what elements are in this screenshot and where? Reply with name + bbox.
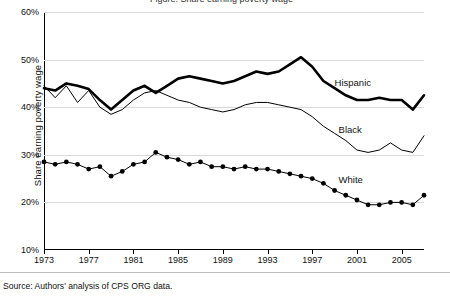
series-marker — [366, 202, 371, 207]
series-marker — [377, 202, 382, 207]
series-marker — [254, 167, 259, 172]
series-marker — [153, 150, 158, 155]
series-label-white: White — [339, 174, 363, 185]
series-marker — [265, 167, 270, 172]
series-marker — [176, 157, 181, 162]
chart-page: Figure: Share earning poverty wage Share… — [0, 0, 450, 304]
series-marker — [120, 169, 125, 174]
series-marker — [332, 188, 337, 193]
x-tick-mark — [357, 250, 358, 254]
series-marker — [355, 198, 360, 203]
series-marker — [276, 169, 281, 174]
series-line-white — [44, 152, 424, 204]
x-tick-label: 1997 — [302, 255, 322, 265]
x-tick-mark — [44, 250, 45, 254]
x-tick-mark — [89, 250, 90, 254]
clipped-title: Figure: Share earning poverty wage — [0, 0, 450, 9]
series-marker — [209, 164, 214, 169]
y-tick-label: 40% — [21, 102, 39, 112]
series-marker — [299, 174, 304, 179]
series-marker — [142, 160, 147, 165]
series-marker — [97, 164, 102, 169]
series-marker — [232, 167, 237, 172]
plot-area: 10%20%30%40%50%60% 197319771981198519891… — [44, 12, 424, 250]
x-tick-label: 1981 — [123, 255, 143, 265]
x-tick-label: 2005 — [392, 255, 412, 265]
x-tick-mark — [133, 250, 134, 254]
x-tick-label: 1985 — [168, 255, 188, 265]
series-marker — [243, 164, 248, 169]
series-marker — [220, 164, 225, 169]
series-marker — [399, 200, 404, 205]
series-marker — [75, 162, 80, 167]
series-marker — [422, 193, 427, 198]
series-marker — [64, 160, 69, 165]
y-tick-label: 30% — [21, 150, 39, 160]
series-marker — [321, 181, 326, 186]
series-marker — [86, 167, 91, 172]
divider — [0, 272, 450, 273]
series-marker — [131, 162, 136, 167]
series-line-black — [44, 86, 424, 153]
source-note: Source: Authors' analysis of CPS ORG dat… — [3, 281, 172, 291]
series-marker — [42, 160, 47, 165]
series-label-hispanic: Hispanic — [335, 77, 371, 88]
x-tick-label: 1977 — [79, 255, 99, 265]
clipped-title-text: Figure: Share earning poverty wage — [150, 0, 293, 4]
series-marker — [388, 200, 393, 205]
y-tick-label: 20% — [21, 197, 39, 207]
y-tick-label: 50% — [21, 55, 39, 65]
series-marker — [343, 193, 348, 198]
y-tick-label: 10% — [21, 245, 39, 255]
series-label-black: Black — [339, 124, 362, 135]
x-tick-label: 1989 — [213, 255, 233, 265]
x-tick-label: 2001 — [347, 255, 367, 265]
series-marker — [198, 160, 203, 165]
x-tick-mark — [402, 250, 403, 254]
series-lines — [44, 12, 424, 250]
series-marker — [165, 155, 170, 160]
x-tick-mark — [268, 250, 269, 254]
series-marker — [53, 162, 58, 167]
series-marker — [187, 162, 192, 167]
series-marker — [287, 171, 292, 176]
series-marker — [109, 174, 114, 179]
x-tick-mark — [178, 250, 179, 254]
x-tick-label: 1973 — [34, 255, 54, 265]
x-tick-label: 1993 — [258, 255, 278, 265]
x-tick-mark — [312, 250, 313, 254]
series-marker — [410, 202, 415, 207]
x-tick-mark — [223, 250, 224, 254]
series-marker — [310, 176, 315, 181]
y-tick-label: 60% — [21, 7, 39, 17]
